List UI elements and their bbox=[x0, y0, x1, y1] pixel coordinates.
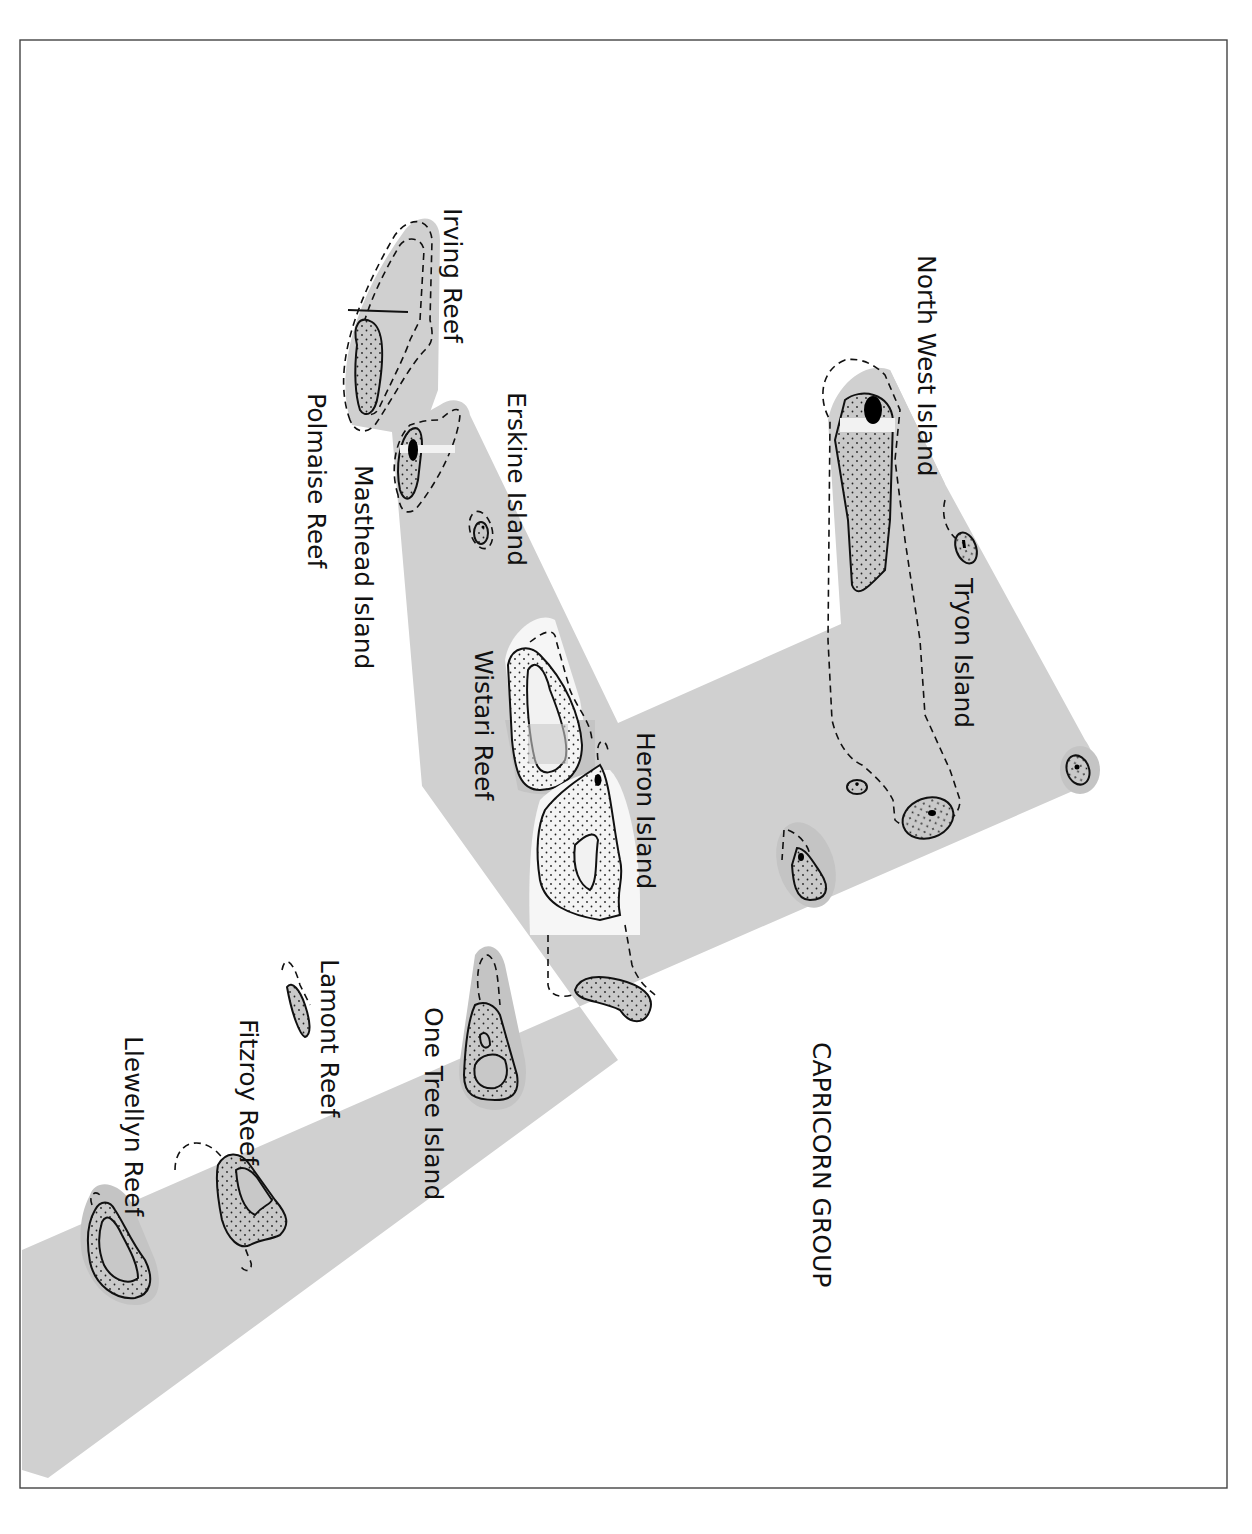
lamont-reef bbox=[282, 962, 310, 1037]
small-reef-east bbox=[1060, 746, 1100, 794]
one-tree-island-reef bbox=[459, 946, 526, 1110]
label-irving-reef: Irving Reef bbox=[438, 208, 467, 344]
label-wistari-reef: Wistari Reef bbox=[469, 650, 498, 801]
capricorn-group-map: North West Island Tryon Island Irving Re… bbox=[0, 0, 1252, 1534]
label-llewellyn-reef: Llewellyn Reef bbox=[119, 1036, 148, 1218]
label-fitzroy-reef: Fitzroy Reef bbox=[234, 1019, 263, 1166]
label-lamont-reef: Lamont Reef bbox=[315, 959, 344, 1118]
label-north-west-island: North West Island bbox=[912, 255, 941, 477]
label-erskine-island: Erskine Island bbox=[502, 392, 531, 566]
label-heron-island: Heron Island bbox=[631, 732, 660, 889]
label-polmaise-reef: Polmaise Reef bbox=[302, 393, 331, 569]
label-masthead-island: Masthead Island bbox=[349, 465, 378, 669]
label-one-tree-island: One Tree Island bbox=[419, 1007, 448, 1200]
label-tryon-island: Tryon Island bbox=[949, 577, 978, 728]
map-title: CAPRICORN GROUP bbox=[807, 1042, 836, 1287]
